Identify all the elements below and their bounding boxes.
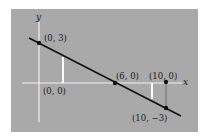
label-point-6-0: (6, 0) <box>116 71 139 81</box>
point-10-neg3 <box>164 106 168 110</box>
diagram-svg: y x (0, 3) (0, 0) (6, 0) (10, 0) (10, −3… <box>0 0 208 140</box>
label-origin: (0, 0) <box>43 86 66 96</box>
y-axis-label: y <box>35 12 42 22</box>
label-point-0-3: (0, 3) <box>44 33 67 43</box>
label-point-10-0: (10, 0) <box>149 71 177 81</box>
point-6-0 <box>113 81 117 85</box>
label-point-10-neg3: (10, −3) <box>132 113 167 123</box>
point-0-3 <box>37 41 41 45</box>
coordinate-diagram: y x (0, 3) (0, 0) (6, 0) (10, 0) (10, −3… <box>0 0 208 140</box>
x-axis-label: x <box>183 77 188 87</box>
